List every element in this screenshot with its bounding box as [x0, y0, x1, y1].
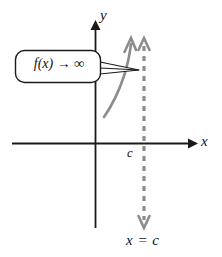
- function-curve-group: [104, 38, 136, 117]
- asymptote-equation-label: x = c: [126, 233, 159, 248]
- y-axis-arrowhead-icon: [91, 20, 101, 30]
- x-axis: [12, 139, 198, 149]
- asymptote-diagram-svg: [0, 0, 222, 257]
- figure-container: y x c x = c f(x) → ∞: [0, 0, 222, 257]
- function-curve: [104, 44, 131, 117]
- c-tick-label: c: [127, 146, 133, 159]
- x-axis-arrowhead-icon: [188, 139, 198, 149]
- callout-label: f(x) → ∞: [22, 56, 96, 71]
- y-axis-label: y: [100, 8, 107, 23]
- asymptote-line-group: [139, 38, 150, 228]
- x-axis-label: x: [201, 134, 208, 149]
